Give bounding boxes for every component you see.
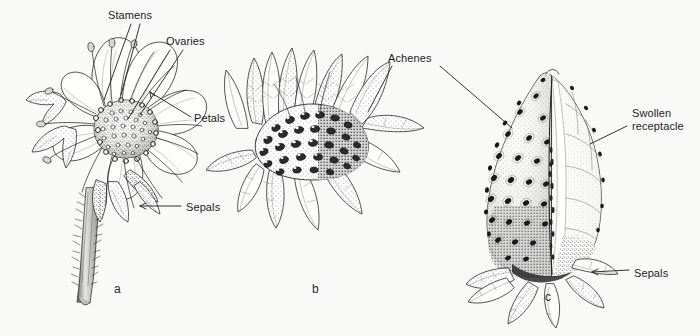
botanical-figure: Stamens Ovaries Petals Sepals Achenes Sw…	[0, 0, 700, 336]
label-stamens: Stamens	[108, 9, 152, 22]
label-ovaries: Ovaries	[166, 35, 205, 48]
label-petals: Petals	[194, 112, 225, 125]
label-achenes: Achenes	[388, 52, 432, 65]
label-sepals-a: Sepals	[186, 201, 220, 214]
panel-letter-b: b	[312, 282, 319, 296]
panel-letter-a: a	[114, 282, 121, 296]
panel-letter-c: c	[545, 290, 551, 304]
illustration-artwork	[0, 0, 700, 336]
label-swollen-receptacle: Swollen receptacle	[632, 107, 684, 132]
label-sepals-c: Sepals	[634, 267, 668, 280]
